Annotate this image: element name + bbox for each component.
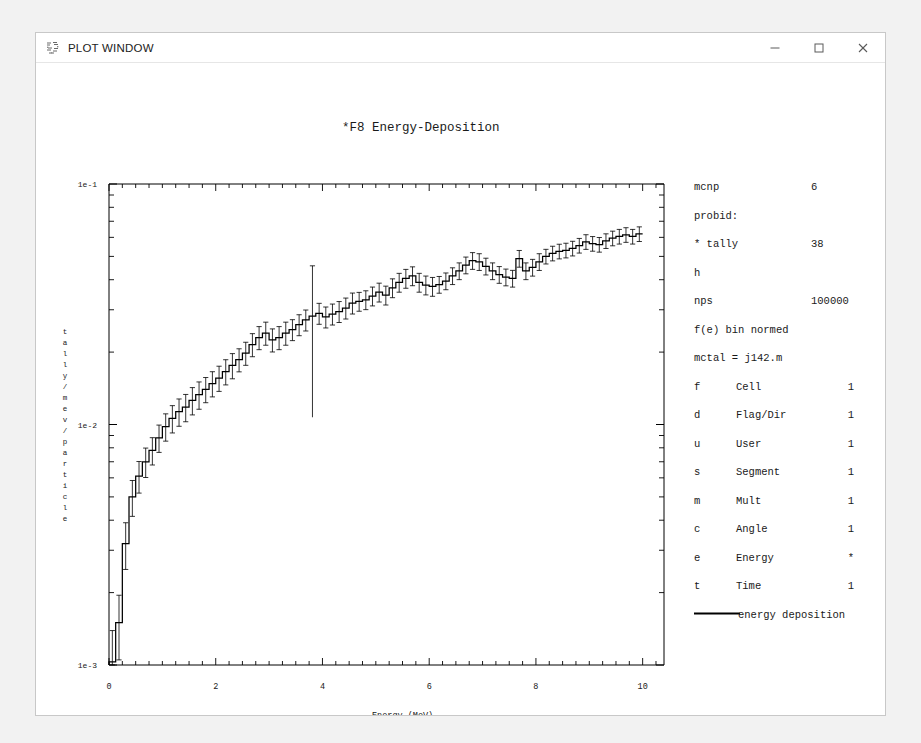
minimize-button[interactable] [753, 33, 797, 63]
svg-text:a: a [63, 339, 68, 347]
legend-row-key: mcnp [694, 181, 719, 193]
svg-text:l: l [63, 504, 68, 512]
svg-text:a: a [63, 449, 68, 457]
legend-bin-label: Cell [736, 381, 761, 393]
maximize-button[interactable] [797, 33, 841, 63]
axis-ticks [109, 184, 664, 665]
legend-row-key: nps [694, 295, 713, 307]
data-series-energy-deposition [109, 227, 643, 665]
legend-series-entry: energy deposition [694, 609, 845, 621]
plot-canvas[interactable]: *F8 Energy-Deposition 02468101e-31e-21e-… [36, 63, 885, 715]
legend-bin-row: dFlag/Dir1 [694, 409, 854, 421]
legend-bin-row: fCell1 [694, 381, 854, 393]
chart-title: *F8 Energy-Deposition [342, 121, 500, 135]
legend-row-value: 38 [811, 238, 824, 250]
legend-bin-value: 1 [848, 495, 854, 507]
svg-text:2: 2 [213, 682, 218, 692]
axis-tick-labels: 02468101e-31e-21e-1 [78, 180, 648, 692]
window-titlebar[interactable]: PLOT WINDOW [36, 33, 885, 63]
legend-bin-value: 1 [848, 580, 854, 592]
svg-text:6: 6 [427, 682, 432, 692]
x-axis-label: Energy (MeV) [372, 711, 433, 715]
legend-bin-label: Angle [736, 523, 768, 535]
legend-bin-label: User [736, 438, 761, 450]
svg-text:l: l [63, 361, 68, 369]
svg-text:/: / [63, 427, 68, 435]
legend-row: mctal = j142.m [694, 352, 782, 364]
legend-bin-key: d [694, 409, 700, 421]
legend-row: probid: [694, 210, 738, 222]
svg-text:p: p [63, 438, 68, 446]
legend-bin-key: f [694, 381, 700, 393]
legend-bin-row: sSegment1 [694, 466, 854, 478]
legend-bin-value: 1 [848, 409, 854, 421]
svg-text:e: e [63, 515, 68, 523]
legend-row: mcnp6 [694, 181, 817, 193]
svg-text:10: 10 [638, 682, 648, 692]
axes-group [109, 184, 664, 665]
svg-text:1e-3: 1e-3 [78, 661, 97, 670]
legend-bin-key: u [694, 438, 700, 450]
svg-text:i: i [63, 482, 68, 490]
legend-bin-label: Energy [736, 552, 774, 564]
legend-bin-row: eEnergy* [694, 552, 854, 564]
svg-text:r: r [63, 460, 68, 468]
legend-row-key: * tally [694, 238, 738, 250]
legend-bin-value: * [848, 552, 854, 564]
legend-row-key: mctal = j142.m [694, 352, 782, 364]
svg-text:t: t [63, 471, 68, 479]
legend-bin-key: s [694, 466, 700, 478]
svg-text:e: e [63, 405, 68, 413]
legend-bin-label: Segment [736, 466, 780, 478]
legend-bin-row: cAngle1 [694, 523, 854, 535]
svg-text:y: y [63, 372, 68, 380]
svg-text:m: m [63, 394, 68, 402]
window-title: PLOT WINDOW [68, 42, 154, 54]
page-background: PLOT WINDOW [0, 0, 921, 743]
legend-bin-value: 1 [848, 466, 854, 478]
legend-row: * tally38 [694, 238, 824, 250]
legend-row: f(e) bin normed [694, 324, 789, 336]
legend-bin-key: t [694, 580, 700, 592]
legend-row-key: probid: [694, 210, 738, 222]
svg-text:0: 0 [106, 682, 111, 692]
legend-bin-value: 1 [848, 523, 854, 535]
legend-bin-key: m [694, 495, 700, 507]
mcnp-plot-icon [45, 40, 61, 56]
svg-text:l: l [63, 350, 68, 358]
legend-row-value: 6 [811, 181, 817, 193]
plot-window: PLOT WINDOW [35, 32, 886, 716]
legend-row-key: f(e) bin normed [694, 324, 789, 336]
svg-text:4: 4 [320, 682, 325, 692]
svg-text:8: 8 [533, 682, 538, 692]
legend-panel: mcnp6probid:* tally38hnps100000f(e) bin … [694, 181, 854, 621]
legend-bin-value: 1 [848, 438, 854, 450]
legend-bin-row: uUser1 [694, 438, 854, 450]
legend-series-label: energy deposition [738, 609, 845, 621]
legend-bin-label: Time [736, 580, 761, 592]
close-button[interactable] [841, 33, 885, 63]
svg-text:1e-2: 1e-2 [78, 421, 97, 430]
legend-bin-row: tTime1 [694, 580, 854, 592]
legend-row-value: 100000 [811, 295, 849, 307]
legend-bin-key: c [694, 523, 700, 535]
legend-row-key: h [694, 267, 700, 279]
svg-text:v: v [63, 416, 68, 424]
legend-bin-row: mMult1 [694, 495, 854, 507]
svg-text:1e-1: 1e-1 [78, 180, 97, 189]
svg-text:t: t [63, 328, 68, 336]
svg-text:c: c [63, 493, 68, 501]
plot-figure: *F8 Energy-Deposition 02468101e-31e-21e-… [36, 63, 885, 715]
legend-bin-label: Flag/Dir [736, 409, 786, 421]
legend-row: h [694, 267, 700, 279]
y-axis-label: tally/mev/particle [63, 328, 68, 523]
legend-bin-label: Mult [736, 495, 761, 507]
window-controls [753, 33, 885, 63]
legend-bin-value: 1 [848, 381, 854, 393]
legend-bin-key: e [694, 552, 700, 564]
legend-row: nps100000 [694, 295, 849, 307]
svg-text:/: / [63, 383, 68, 391]
